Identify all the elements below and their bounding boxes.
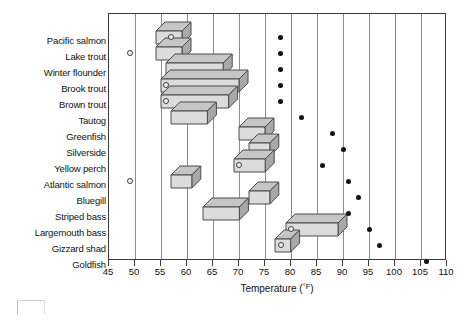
data-marks-layer <box>109 14 445 259</box>
lethal-limit-marker-gizzard-shad <box>377 243 382 248</box>
lethal-limit-marker-brook-trout <box>278 83 283 88</box>
x-tick-label-100: 100 <box>386 266 402 277</box>
preferred-temp-marker-largemouth-bass <box>288 226 294 232</box>
lethal-limit-marker-tautog <box>299 115 304 120</box>
x-tick-label-60: 60 <box>181 266 192 277</box>
scan-artifact-box <box>17 300 45 314</box>
x-tick-label-45: 45 <box>103 266 114 277</box>
lethal-limit-marker-largemouth-bass <box>367 227 372 232</box>
category-label-silverside: Silverside <box>14 148 106 158</box>
lethal-limit-marker-lake-trout <box>278 51 283 56</box>
x-tick-label-50: 50 <box>129 266 140 277</box>
lethal-limit-marker-bluegill <box>356 195 361 200</box>
lethal-limit-marker-striped-bass <box>346 211 351 216</box>
lethal-limit-marker-atlantic-salmon <box>346 179 351 184</box>
category-label-gizzard-shad: Gizzard shad <box>14 244 106 254</box>
x-tick-label-65: 65 <box>207 266 218 277</box>
preferred-temp-marker-yellow-perch <box>236 162 242 168</box>
x-tick-label-90: 90 <box>337 266 348 277</box>
category-label-brook-trout: Brook trout <box>14 84 106 94</box>
preferred-temp-marker-atlantic-salmon <box>127 178 133 184</box>
x-tick-label-70: 70 <box>233 266 244 277</box>
x-axis-title: Temperature (°F) <box>108 282 446 294</box>
x-axis-title-close: ) <box>310 283 313 294</box>
category-label-winter-flounder: Winter flounder <box>14 68 106 78</box>
x-tick-label-110: 110 <box>438 266 453 277</box>
bar-bluegill <box>249 191 270 204</box>
x-tick-label-55: 55 <box>155 266 166 277</box>
x-tick-label-95: 95 <box>363 266 374 277</box>
x-axis-tick-labels: 4550556065707580859095100105110 <box>88 266 468 280</box>
chart-figure: Pacific salmon Lake trout Winter flounde… <box>0 0 471 320</box>
x-tick-label-80: 80 <box>285 266 296 277</box>
category-label-yellow-perch: Yellow perch <box>14 164 106 174</box>
lethal-limit-marker-yellow-perch <box>320 163 325 168</box>
category-label-striped-bass: Striped bass <box>14 212 106 222</box>
bar-atlantic-salmon <box>171 175 192 188</box>
category-label-lake-trout: Lake trout <box>14 52 106 62</box>
category-label-atlantic-salmon: Atlantic salmon <box>14 180 106 190</box>
plot-area <box>108 13 446 260</box>
x-tick-label-75: 75 <box>259 266 270 277</box>
lethal-limit-marker-brown-trout <box>278 99 283 104</box>
x-axis-title-text: Temperature ( <box>240 283 302 294</box>
preferred-temp-marker-lake-trout <box>127 50 133 56</box>
x-tick-label-85: 85 <box>311 266 322 277</box>
bar-striped-bass <box>203 207 239 220</box>
category-label-tautog: Tautog <box>14 116 106 126</box>
lethal-limit-marker-pacific-salmon <box>278 35 283 40</box>
x-tick-label-105: 105 <box>412 266 428 277</box>
category-label-brown-trout: Brown trout <box>14 100 106 110</box>
lethal-limit-marker-winter-flounder <box>278 67 283 72</box>
category-label-pacific-salmon: Pacific salmon <box>14 36 106 46</box>
bar-tautog <box>171 111 207 124</box>
preferred-temp-marker-gizzard-shad <box>278 242 284 248</box>
category-label-bluegill: Bluegill <box>14 196 106 206</box>
lethal-limit-marker-silverside <box>341 147 346 152</box>
category-label-greenfish: Greenfish <box>14 132 106 142</box>
category-label-largemouth-bass: Largemouth bass <box>14 228 106 238</box>
lethal-limit-marker-greenfish <box>330 131 335 136</box>
